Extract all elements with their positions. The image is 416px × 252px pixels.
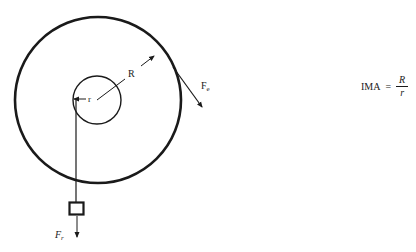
formula-numerator: R: [396, 75, 408, 87]
outer-wheel: [15, 17, 181, 183]
effort-force-label: Fe: [201, 80, 210, 93]
formula-fraction: R r: [396, 75, 408, 98]
effort-force-arrow: [173, 67, 202, 107]
radius-r-label: r: [88, 94, 91, 104]
load-box: [70, 203, 84, 215]
formula-lhs: IMA: [361, 81, 380, 92]
radius-R-label: R: [128, 68, 135, 79]
radius-R-arrow: [141, 56, 154, 66]
formula-denominator: r: [400, 87, 404, 98]
formula-equals: =: [385, 81, 391, 92]
ima-formula: IMA = R r: [361, 74, 408, 98]
wheel-and-axle-diagram: R r Fr Fe: [0, 0, 416, 252]
resistance-force-label: Fr: [54, 229, 64, 242]
